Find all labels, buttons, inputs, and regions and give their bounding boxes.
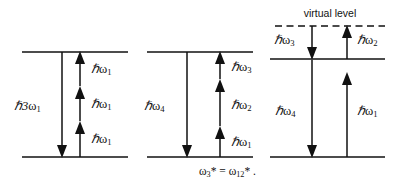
panel-2-absorption-arrow-top <box>215 51 225 79</box>
panel-3-omega1-arrow <box>342 72 352 157</box>
energy-level-diagram: ℏ3ω1 ℏω1 ℏω1 ℏω1 <box>0 0 396 186</box>
panel-3-omega3-label: ℏω3 <box>274 33 295 48</box>
panel-2-emission-arrowhead <box>182 145 192 158</box>
panel-1-absorption-arrowhead-bottom <box>75 121 85 134</box>
panel-2-absorption-label-bottom: ℏω1 <box>231 135 252 150</box>
panel-2-absorption-arrow-bottom <box>215 126 225 157</box>
panel-2-absorption-arrowhead-top <box>215 51 225 64</box>
panel-3-omega4-label: ℏω4 <box>275 104 296 119</box>
panel-1-absorption-arrow-bottom <box>75 121 85 157</box>
panel-3-omega2-label: ℏω2 <box>357 33 378 48</box>
panel-1-absorption-label-middle: ℏω1 <box>91 97 112 112</box>
panel-3-omega4-arrowhead <box>307 145 317 158</box>
panel-2-emission-label: ℏω4 <box>144 99 165 114</box>
panel-2-sum-frequency: ℏω4 ℏω3 ℏω2 ℏω1 <box>144 51 256 179</box>
panel-2-absorption-arrowhead-bottom <box>215 126 225 139</box>
panel-1-absorption-arrow-middle <box>75 86 85 121</box>
panel-3-omega2-arrow <box>342 25 352 59</box>
panel-3-omega1-label: ℏω1 <box>357 104 378 119</box>
panel-3-omega3-arrowhead <box>307 47 317 60</box>
panel-1-emission-arrowhead <box>57 145 67 158</box>
panel-1-third-harmonic: ℏ3ω1 ℏω1 ℏω1 ℏω1 <box>14 51 128 158</box>
panel-3-omega4-arrow <box>307 60 317 158</box>
panel-1-absorption-arrow-top <box>75 51 85 86</box>
panel-3-four-wave-mixing: virtual level ℏω3 ℏω2 <box>270 7 385 158</box>
panel-2-absorption-arrowhead-middle <box>215 79 225 92</box>
energy-diagram-canvas: ℏ3ω1 ℏω1 ℏω1 ℏω1 <box>0 0 396 186</box>
panel-1-emission-label: ℏ3ω1 <box>14 99 41 114</box>
panel-2-emission-arrow <box>182 52 192 158</box>
panel-2-absorption-label-middle: ℏω2 <box>231 98 252 113</box>
panel-1-absorption-label-top: ℏω1 <box>91 62 112 77</box>
panel-1-absorption-label-bottom: ℏω1 <box>91 132 112 147</box>
panel-2-absorption-label-top: ℏω3 <box>231 60 252 75</box>
panel-1-absorption-arrowhead-top <box>75 51 85 64</box>
virtual-level-label: virtual level <box>304 7 357 19</box>
panel-2-absorption-arrow-middle <box>215 79 225 126</box>
panel-3-omega1-arrowhead <box>342 72 352 85</box>
panel-3-omega3-arrow <box>307 26 317 60</box>
panel-1-absorption-arrowhead-middle <box>75 86 85 99</box>
panel-1-emission-arrow <box>57 52 67 158</box>
panel-3-omega2-arrowhead <box>342 25 352 38</box>
panel-2-caption: ω3* = ω12* . <box>199 165 256 179</box>
